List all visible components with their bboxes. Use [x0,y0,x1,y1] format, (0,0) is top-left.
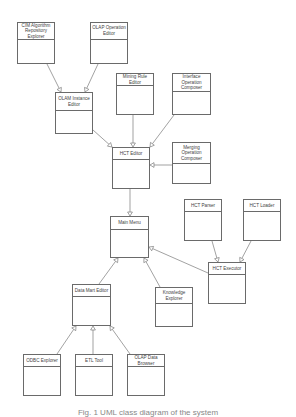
edge-olap_op-to-olam_inst [87,64,98,88]
edge-olam_inst-to-hct_editor [93,130,109,144]
class-name: ODBC Explorer [24,355,60,367]
class-box-etl: ETL Tool [75,354,113,396]
edge-data_mart-to-main_menu [99,261,116,284]
edge-odbc-to-data_mart [57,329,74,354]
class-box-mining-rule: Mining Rule Editor [116,73,154,115]
figure-caption: Fig. 1 UML class diagram of the system [0,408,296,417]
class-name: Knowledge Explorer [156,288,192,304]
edge-olap_browser-to-data_mart [112,329,130,354]
class-box-merge-op: Merging Operation Composer [172,142,211,184]
class-name: HCT Parser [185,200,221,212]
class-name: Data Mart Editor [73,285,110,297]
class-box-data-mart: Data Mart Editor [72,284,111,326]
edge-hct_exec-to-main_menu [153,249,208,273]
generalization-arrowhead-icon [91,326,96,330]
class-name: Merging Operation Composer [173,143,210,164]
class-box-cim-repo: CIM Algorithm Repository Explorer [17,22,55,64]
class-name: OLAP Data Browser [128,355,164,367]
generalization-arrowhead-icon [114,258,118,263]
class-name: OLAP Operation Editor [91,23,127,40]
class-box-hct-loader: HCT Loader [243,199,281,241]
generalization-arrowhead-icon [150,142,154,147]
edge-iface_op-to-hct_editor [152,115,174,144]
class-name: HCT Editor [113,148,149,160]
class-box-olap-op: OLAP Operation Editor [90,22,128,64]
generalization-arrowhead-icon [72,326,76,331]
class-name: HCT Loader [244,200,280,212]
class-box-odbc: ODBC Explorer [23,354,61,396]
class-box-iface-op: Interface Operation Composer [172,73,211,115]
class-name: CIM Algorithm Repository Explorer [18,23,54,40]
class-name: Main Menu [111,217,148,230]
class-name: OLAM Instance Editor [56,93,92,111]
generalization-arrowhead-icon [149,246,154,250]
class-name: Mining Rule Editor [117,74,153,86]
generalization-arrowhead-icon [110,326,114,331]
class-box-main-menu: Main Menu [110,216,149,258]
class-box-knowledge: Knowledge Explorer [155,287,193,327]
edge-knowledge-to-main_menu [146,262,160,287]
edge-cim_repo-to-olam_inst [47,64,59,88]
edge-hct_loader-to-hct_exec [242,241,251,258]
class-name: HCT Executor [209,263,245,275]
class-box-hct-parser: HCT Parser [184,199,222,241]
class-name: ETL Tool [76,355,112,367]
class-box-olam-inst: OLAM Instance Editor [55,92,93,134]
class-name: Interface Operation Composer [173,74,210,92]
class-box-olap-browser: OLAP Data Browser [127,354,165,396]
generalization-arrowhead-icon [150,163,154,168]
class-box-hct-editor: HCT Editor [112,147,150,189]
class-box-hct-exec: HCT Executor [208,262,246,304]
edge-hct_parser-to-hct_exec [212,241,217,258]
